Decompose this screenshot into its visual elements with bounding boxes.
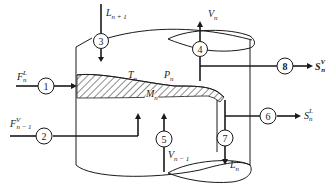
svg-text:5: 5 bbox=[162, 134, 167, 145]
node-1: 1 bbox=[38, 78, 54, 94]
label-V-n-1: Vn − 1 bbox=[168, 149, 189, 163]
stream-1: 1 FLn bbox=[16, 69, 77, 94]
label-S-V-n: SVn bbox=[315, 58, 327, 74]
node-7: 7 bbox=[217, 130, 233, 146]
node-5: 5 bbox=[156, 131, 172, 147]
label-V-n: Vn bbox=[208, 8, 218, 22]
node-8: 8 bbox=[277, 58, 293, 74]
svg-text:2: 2 bbox=[42, 131, 47, 142]
node-3: 3 bbox=[94, 34, 109, 49]
svg-text:8: 8 bbox=[283, 61, 288, 72]
stream-8: 8 SVn bbox=[200, 58, 327, 74]
stream-3: 3 Ln + 1 bbox=[94, 4, 127, 62]
stream-5: 5 Vn − 1 bbox=[156, 113, 189, 172]
node-2: 2 bbox=[36, 128, 52, 144]
svg-text:3: 3 bbox=[99, 36, 104, 47]
label-L-n-plus-1: Ln + 1 bbox=[105, 7, 127, 21]
label-F-V-n-1: FVn − 1 bbox=[9, 116, 32, 131]
stream-6: 6 SLn bbox=[225, 107, 313, 124]
svg-text:6: 6 bbox=[266, 111, 271, 122]
node-6: 6 bbox=[260, 108, 276, 124]
stream-2: 2 FVn − 1 bbox=[9, 113, 141, 144]
svg-text:1: 1 bbox=[44, 81, 49, 92]
stream-4: 4 Vn bbox=[193, 8, 219, 81]
label-pressure: Pn bbox=[163, 69, 174, 83]
svg-text:4: 4 bbox=[198, 44, 203, 55]
stream-7: 7 Ln bbox=[217, 100, 240, 173]
svg-text:7: 7 bbox=[223, 133, 228, 144]
label-F-L-n: FLn bbox=[16, 69, 27, 84]
node-4: 4 bbox=[193, 42, 208, 57]
equilibrium-stage-diagram: 3 Ln + 1 4 Vn 8 SVn 1 FLn bbox=[0, 0, 336, 192]
label-S-L-n: SLn bbox=[304, 107, 313, 123]
